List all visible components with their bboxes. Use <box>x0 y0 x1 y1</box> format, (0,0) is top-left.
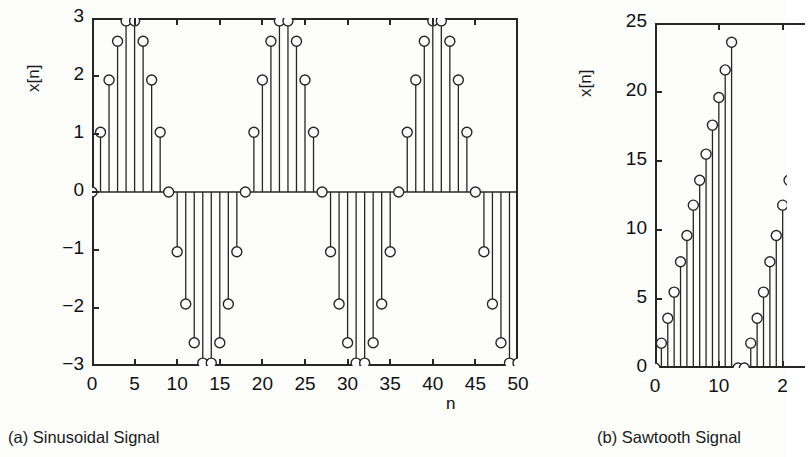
y-axis-label-b: x[n] <box>576 70 596 97</box>
stem-marker <box>385 247 395 257</box>
y-tick-label: 3 <box>40 5 84 27</box>
y-tick-label: 0 <box>603 355 647 377</box>
y-tick-label: 15 <box>603 148 647 170</box>
stem-marker <box>727 37 737 47</box>
x-tick-mark <box>261 359 263 366</box>
x-tick-mark-top <box>134 18 136 25</box>
stem-plot-sawtooth <box>655 23 787 368</box>
x-tick-mark <box>474 359 476 366</box>
stem-marker <box>138 36 148 46</box>
stem-marker <box>714 93 724 103</box>
plot-area-b <box>655 23 787 368</box>
stem-marker <box>155 127 165 137</box>
stem-marker <box>752 313 762 323</box>
stem-marker <box>147 75 157 85</box>
stem-marker <box>765 257 775 267</box>
stem-marker <box>479 247 489 257</box>
stem-marker <box>300 75 310 85</box>
caption-b: (b) Sawtooth Signal <box>597 428 741 447</box>
y-tick-label: −1 <box>40 237 84 259</box>
stem-marker <box>266 36 276 46</box>
y-tick-mark <box>92 133 99 135</box>
stem-marker <box>496 338 506 348</box>
stem-marker <box>104 75 114 85</box>
stem-marker <box>771 231 781 241</box>
x-tick-mark <box>432 359 434 366</box>
stem-marker <box>419 36 429 46</box>
x-tick-mark <box>718 361 720 368</box>
stem-marker <box>232 247 242 257</box>
x-tick-mark-top <box>389 18 391 25</box>
stem-marker <box>513 358 518 366</box>
stem-marker <box>215 338 225 348</box>
stem-marker <box>309 127 319 137</box>
x-tick-mark <box>389 359 391 366</box>
y-tick-label: 0 <box>40 179 84 201</box>
y-tick-label: 20 <box>603 79 647 101</box>
y-tick-mark <box>655 229 662 231</box>
stem-marker <box>739 363 749 368</box>
y-tick-mark <box>92 191 99 193</box>
stem-marker <box>682 231 692 241</box>
x-tick-mark <box>176 359 178 366</box>
stem-marker <box>655 363 660 368</box>
x-tick-mark-top <box>261 18 263 25</box>
stem-marker <box>181 299 191 309</box>
stem-marker <box>676 257 686 267</box>
stem-marker <box>720 65 730 75</box>
stem-marker <box>663 313 673 323</box>
stem-marker <box>707 120 717 130</box>
stem-marker <box>164 187 174 197</box>
stem-marker <box>784 175 787 185</box>
stem-marker <box>249 127 259 137</box>
y-tick-label: 5 <box>603 286 647 308</box>
x-tick-mark-top <box>219 18 221 25</box>
stem-marker <box>669 287 679 297</box>
x-tick-mark <box>304 359 306 366</box>
y-tick-mark <box>655 298 662 300</box>
stem-plot-sinusoidal <box>92 18 518 366</box>
stem-marker <box>326 247 336 257</box>
panel-sinusoidal-signal: x[n] −3−2−10123 05101520253035404550 n (… <box>0 0 520 457</box>
y-tick-label: 25 <box>603 10 647 32</box>
y-tick-mark <box>92 75 99 77</box>
stem-marker <box>462 127 472 137</box>
stem-marker <box>368 338 378 348</box>
y-tick-label: 10 <box>603 217 647 239</box>
y-tick-mark <box>655 91 662 93</box>
x-tick-mark <box>782 361 784 368</box>
stem-marker <box>189 338 199 348</box>
stem-marker <box>746 338 756 348</box>
panel-sawtooth-signal: x[n] 0510152025 0102 (b) Sawtooth Signal <box>520 0 787 457</box>
stem-marker <box>206 358 216 366</box>
x-tick-mark-top <box>782 23 784 30</box>
x-tick-label: 0 <box>625 375 685 397</box>
x-axis-label-a: n <box>446 394 455 414</box>
stem-marker <box>445 36 455 46</box>
stem-marker <box>240 187 250 197</box>
x-tick-mark-top <box>304 18 306 25</box>
stem-marker <box>688 200 698 210</box>
x-tick-label: 10 <box>689 375 749 397</box>
stem-marker <box>470 187 480 197</box>
x-tick-mark-top <box>718 23 720 30</box>
stem-marker <box>257 75 267 85</box>
caption-a: (a) Sinusoidal Signal <box>8 428 159 447</box>
stem-marker <box>317 187 327 197</box>
stem-marker <box>453 75 463 85</box>
stem-marker <box>283 18 293 26</box>
y-tick-label: −2 <box>40 295 84 317</box>
stem-marker <box>291 36 301 46</box>
stem-marker <box>701 149 711 159</box>
y-tick-mark <box>92 249 99 251</box>
x-tick-mark-top <box>432 18 434 25</box>
stem-marker <box>411 75 421 85</box>
x-tick-mark <box>134 359 136 366</box>
stem-marker <box>113 36 123 46</box>
stem-marker <box>759 287 769 297</box>
y-tick-label: 2 <box>40 63 84 85</box>
stem-marker <box>334 299 344 309</box>
stem-marker <box>394 187 404 197</box>
stem-marker <box>487 299 497 309</box>
